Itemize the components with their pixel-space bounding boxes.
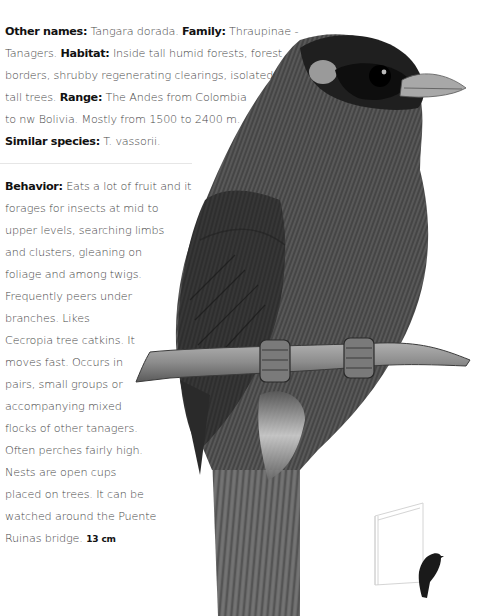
info-line: Similar species: T. vassorii. [5,131,325,153]
field-value: Thraupinae - [226,25,299,38]
field-label: Range: [60,91,102,104]
behavior-text: Frequently peers under [5,290,132,303]
behavior-line: branches. Likes [5,308,195,330]
behavior-text: placed on trees. It can be [5,488,144,501]
behavior-line: Cecropia tree catkins. It [5,330,195,352]
behavior-text: Nests are open cups [5,466,116,479]
field-value: to nw Bolivia. Mostly from 1500 to 2400 … [5,113,240,126]
behavior-text: Eats a lot of fruit and it [66,180,191,193]
behavior-text: watched around the Puente [5,510,156,523]
behavior-line: upper levels, searching limbs [5,220,195,242]
field-value: Inside tall humid forests, forest [110,47,283,60]
behavior-text: pairs, small groups or [5,378,123,391]
behavior-text: upper levels, searching limbs [5,224,164,237]
size-comparison-icon [375,503,444,598]
behavior-line: Frequently peers under [5,286,195,308]
bird-beak [400,74,466,97]
bird-tail [212,455,300,616]
behavior-line: Behavior: Eats a lot of fruit and it [5,176,195,198]
behavior-line: Ruinas bridge. 13 cm [5,528,195,550]
behavior-line: pairs, small groups or [5,374,195,396]
field-value: Tangara dorada. [87,25,182,38]
field-value: Tanagers. [5,47,60,60]
section-divider [0,163,192,164]
field-label: Other names: [5,25,87,38]
field-value: T. vassorii. [100,135,161,148]
behavior-text: foliage and among twigs. [5,268,142,281]
bird-silhouette-icon [419,553,444,598]
behavior-line: flocks of other tanagers. [5,418,195,440]
info-line: Tanagers. Habitat: Inside tall humid for… [5,43,325,65]
field-label: Similar species: [5,135,100,148]
species-info-block: Other names: Tangara dorada. Family: Thr… [5,21,325,153]
behavior-text: Ruinas bridge. [5,532,83,545]
behavior-line: watched around the Puente [5,506,195,528]
behavior-text: Cecropia tree catkins. It [5,334,135,347]
behavior-label: Behavior: [5,180,63,193]
info-line: borders, shrubby regenerating clearings,… [5,65,325,87]
field-label: Habitat: [60,47,109,60]
behavior-line: foliage and among twigs. [5,264,195,286]
behavior-text: Often perches fairly high. [5,444,143,457]
behavior-block: Behavior: Eats a lot of fruit and itfora… [5,176,195,550]
behavior-line: Often perches fairly high. [5,440,195,462]
behavior-text: and clusters, gleaning on [5,246,142,259]
behavior-line: and clusters, gleaning on [5,242,195,264]
behavior-line: moves fast. Occurs in [5,352,195,374]
behavior-line: Nests are open cups [5,462,195,484]
behavior-line: placed on trees. It can be [5,484,195,506]
size-label: 13 cm [86,534,116,544]
behavior-text: flocks of other tanagers. [5,422,138,435]
field-value: borders, shrubby regenerating clearings,… [5,69,273,82]
behavior-text: accompanying mixed [5,400,122,413]
info-line: tall trees. Range: The Andes from Colomb… [5,87,325,109]
behavior-line: forages for insects at mid to [5,198,195,220]
behavior-text: branches. Likes [5,312,90,325]
behavior-text: forages for insects at mid to [5,202,158,215]
field-value: tall trees. [5,91,60,104]
behavior-line: accompanying mixed [5,396,195,418]
book-icon [375,503,423,585]
field-value: The Andes from Colombia [102,91,247,104]
info-line: Other names: Tangara dorada. Family: Thr… [5,21,325,43]
field-label: Family: [182,25,226,38]
behavior-text: moves fast. Occurs in [5,356,123,369]
info-line: to nw Bolivia. Mostly from 1500 to 2400 … [5,109,325,131]
bird-eye [369,65,391,87]
